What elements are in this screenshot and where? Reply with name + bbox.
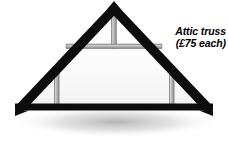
attic-truss-illustration xyxy=(0,0,228,148)
ground-shadow xyxy=(12,106,220,138)
diagram-canvas: Attic truss (£75 each) xyxy=(0,0,228,148)
bottom-chord xyxy=(15,104,213,111)
apex-joint xyxy=(105,1,123,12)
